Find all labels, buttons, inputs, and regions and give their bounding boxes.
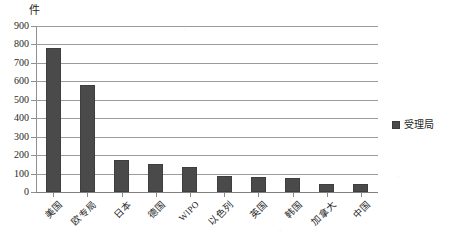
plot-area [36, 26, 378, 192]
gridline [36, 44, 378, 45]
y-axis-tick-label: 100 [1, 169, 29, 179]
bar [319, 184, 334, 192]
bar [251, 177, 266, 192]
y-axis-tick-label: 300 [1, 132, 29, 142]
y-axis-tick-label: 500 [1, 95, 29, 105]
y-axis-tick-mark [31, 63, 36, 64]
y-axis-tick-mark [31, 44, 36, 45]
y-axis-tick-mark [31, 118, 36, 119]
bar [217, 176, 232, 192]
x-axis-tick-mark [190, 193, 191, 197]
x-axis-tick-mark [53, 193, 54, 197]
bar-chart: 件 9008007006005004003002001000 美国欧专局日本德国… [0, 0, 452, 246]
y-axis-tick-label: 900 [1, 21, 29, 31]
y-axis-tick-label: 700 [1, 58, 29, 68]
bar [114, 160, 129, 192]
y-axis-tick-mark [31, 155, 36, 156]
x-axis-tick-mark [87, 193, 88, 197]
y-axis-tick-mark [31, 192, 36, 193]
y-axis-tick-mark [31, 137, 36, 138]
x-axis-tick-mark [361, 193, 362, 197]
bar [46, 48, 61, 192]
x-axis-tick-mark [258, 193, 259, 197]
bar [353, 184, 368, 192]
bar [148, 164, 163, 192]
y-axis-tick-label: 600 [1, 76, 29, 86]
legend-swatch-icon [392, 121, 400, 129]
gridline [36, 26, 378, 27]
y-axis-tick-mark [31, 81, 36, 82]
x-axis-tick-mark [293, 193, 294, 197]
y-axis-tick-labels: 9008007006005004003002001000 [0, 0, 29, 246]
bar [285, 178, 300, 192]
chart-legend: 受理局 [392, 119, 434, 130]
gridline [36, 81, 378, 82]
legend-label: 受理局 [404, 119, 434, 130]
y-axis-tick-mark [31, 174, 36, 175]
bar [182, 167, 197, 192]
y-axis-unit-label: 件 [29, 4, 40, 16]
y-axis-tick-label: 800 [1, 39, 29, 49]
x-axis-tick-mark [156, 193, 157, 197]
bar [80, 85, 95, 192]
x-axis-tick-mark [224, 193, 225, 197]
y-axis-tick-label: 400 [1, 113, 29, 123]
x-axis-tick-mark [327, 193, 328, 197]
y-axis-tick-mark [31, 26, 36, 27]
x-axis-tick-mark [122, 193, 123, 197]
y-axis-tick-label: 0 [1, 187, 29, 197]
y-axis-tick-label: 200 [1, 150, 29, 160]
y-axis-tick-mark [31, 100, 36, 101]
gridline [36, 63, 378, 64]
